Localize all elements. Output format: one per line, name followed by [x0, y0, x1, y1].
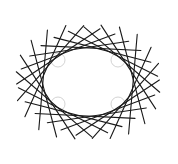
tangent-line: [101, 25, 156, 109]
tangent-line: [21, 34, 115, 69]
tangent-envelope-figure: [0, 0, 178, 164]
tangent-line: [18, 88, 107, 133]
ghost-arcs: [51, 53, 125, 111]
tangent-line: [17, 26, 83, 101]
tangent-line: [76, 80, 159, 135]
tangent-lines: [16, 25, 159, 139]
tangent-line: [39, 30, 48, 130]
tangent-line: [92, 63, 158, 138]
tangent-line: [68, 31, 157, 76]
tangent-line: [20, 55, 75, 139]
tangent-line: [61, 95, 155, 130]
tangent-line: [129, 34, 138, 134]
tangent-line: [17, 29, 100, 84]
